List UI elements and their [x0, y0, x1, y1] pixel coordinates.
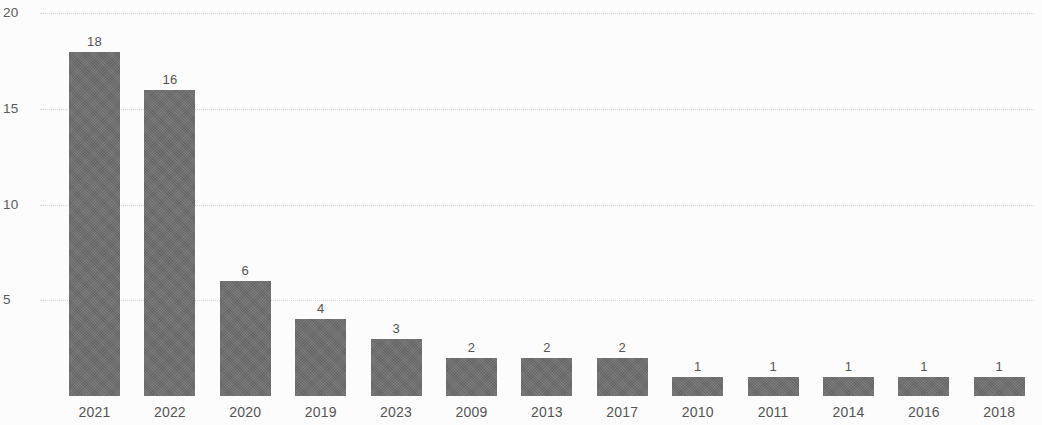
- x-axis-category-label: 2019: [281, 405, 360, 419]
- bar: [144, 90, 195, 396]
- bar-value-label: 3: [357, 322, 436, 335]
- bar: [748, 377, 799, 396]
- bar: [672, 377, 723, 396]
- x-axis-category-label: 2021: [55, 405, 134, 419]
- bar: [220, 281, 271, 396]
- bar: [371, 339, 422, 396]
- bar: [898, 377, 949, 396]
- x-axis-category-label: 2023: [357, 405, 436, 419]
- bar-value-label: 1: [658, 360, 737, 373]
- bar-chart-figure: 5101520 181664322211111 2021202220202019…: [0, 0, 1042, 425]
- x-axis-category-label: 2022: [130, 405, 209, 419]
- bar-value-label: 2: [507, 341, 586, 354]
- bar-value-label: 1: [734, 360, 813, 373]
- bar-value-label: 18: [55, 35, 134, 48]
- x-axis-category-label: 2020: [206, 405, 285, 419]
- bar-value-label: 1: [884, 360, 963, 373]
- gridline-20: [40, 13, 1034, 14]
- bar: [823, 377, 874, 396]
- bar: [69, 52, 120, 396]
- bar-value-label: 1: [809, 360, 888, 373]
- x-axis-category-label: 2011: [734, 405, 813, 419]
- bar: [597, 358, 648, 396]
- bar-value-label: 16: [130, 73, 209, 86]
- bar-value-label: 4: [281, 302, 360, 315]
- plot-area: 5101520 181664322211111 2021202220202019…: [0, 0, 1042, 425]
- bar-value-label: 1: [960, 360, 1039, 373]
- x-axis-category-label: 2016: [884, 405, 963, 419]
- bar-value-label: 6: [206, 264, 285, 277]
- bar-value-label: 2: [583, 341, 662, 354]
- y-axis-tick-label: 5: [3, 293, 37, 307]
- bar: [974, 377, 1025, 396]
- x-axis-category-label: 2017: [583, 405, 662, 419]
- y-axis-tick-label: 10: [3, 198, 37, 212]
- x-axis-category-label: 2014: [809, 405, 888, 419]
- x-axis-category-label: 2018: [960, 405, 1039, 419]
- y-axis-tick-label: 20: [3, 6, 37, 20]
- bar-value-label: 2: [432, 341, 511, 354]
- x-axis-category-label: 2010: [658, 405, 737, 419]
- y-axis-tick-label: 15: [3, 102, 37, 116]
- bar: [295, 319, 346, 396]
- x-axis-category-label: 2013: [507, 405, 586, 419]
- x-axis-category-label: 2009: [432, 405, 511, 419]
- bar: [446, 358, 497, 396]
- bar: [521, 358, 572, 396]
